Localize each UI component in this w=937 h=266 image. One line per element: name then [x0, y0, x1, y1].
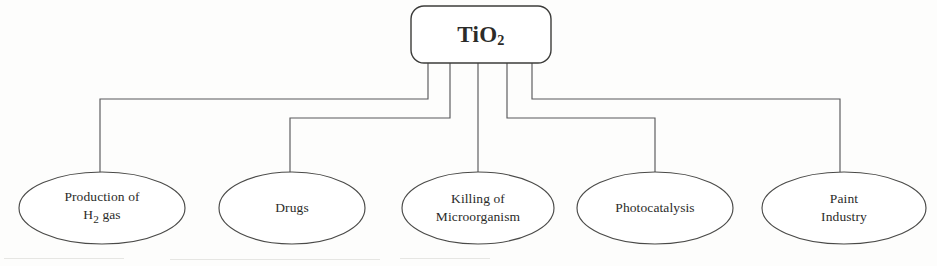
node-shape-drugs[interactable] [219, 172, 365, 244]
connector-drugs [290, 63, 450, 172]
node-shape-killing-of-microorganism[interactable] [402, 172, 554, 244]
scan-artifact-right [400, 258, 490, 259]
scan-artifact-left [4, 258, 124, 259]
diagram-canvas: TiO2 Production of H2 gas Drugs Killing … [0, 0, 937, 266]
node-shape-paint-industry[interactable] [762, 172, 926, 244]
node-shape-production-of-h2-gas[interactable] [19, 172, 185, 244]
scan-artifact-mid [170, 259, 380, 260]
connector-photocatalysis [507, 63, 655, 172]
node-shape-photocatalysis[interactable] [577, 172, 733, 244]
connector-group [100, 63, 840, 172]
diagram-vector-layer [0, 0, 937, 266]
node-shape-tio2-root[interactable] [411, 6, 551, 63]
